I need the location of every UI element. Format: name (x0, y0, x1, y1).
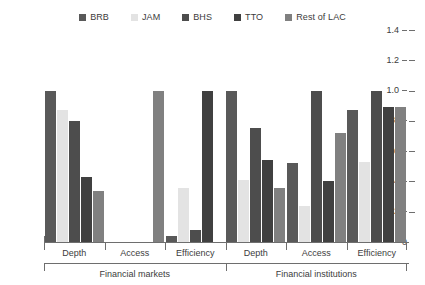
bar (69, 121, 80, 242)
bar (287, 163, 298, 242)
y-axis-tick-dash-right (409, 91, 415, 92)
category-label: Efficiency (358, 249, 396, 258)
bar (311, 91, 322, 242)
legend-item: Rest of LAC (285, 13, 346, 22)
bar-groups (44, 30, 407, 242)
bar-group (165, 30, 226, 242)
legend-swatch-icon (79, 14, 86, 21)
supergroup-label: Financial institutions (276, 270, 357, 279)
bar (299, 206, 310, 242)
bar-group (105, 30, 166, 242)
legend-swatch-icon (131, 14, 138, 21)
supergroup-label: Financial markets (99, 270, 170, 279)
bar-group (226, 30, 287, 242)
legend-swatch-icon (182, 14, 189, 21)
legend-item: JAM (131, 13, 160, 22)
bar (323, 181, 334, 242)
supergroup-label-cell: Financial markets (44, 264, 226, 284)
y-axis-origin-tick (44, 236, 45, 243)
legend-swatch-icon (234, 14, 241, 21)
bar-group (44, 30, 105, 242)
bar (45, 91, 56, 242)
bar (274, 188, 285, 243)
supergroup-tick-end (406, 264, 407, 271)
category-label: Depth (244, 249, 268, 258)
legend-label: TTO (245, 13, 263, 22)
y-axis-tick-dash-right (409, 151, 415, 152)
category-tick (226, 243, 227, 250)
y-axis-tick-dash-right (409, 212, 415, 213)
bar (153, 91, 164, 242)
bar (335, 133, 346, 242)
y-axis-tick-dash-right (409, 60, 415, 61)
legend-label: Rest of LAC (296, 13, 346, 22)
bar (93, 191, 104, 242)
category-tick-end (406, 243, 407, 250)
grouped-bar-chart: BRBJAMBHSTTORest of LAC 00.20.40.60.81.0… (0, 0, 425, 285)
legend-label: BRB (90, 13, 109, 22)
bar (371, 91, 382, 242)
legend-label: JAM (142, 13, 160, 22)
legend-label: BHS (193, 13, 212, 22)
bar (57, 110, 68, 242)
y-axis-tick-dash-right (409, 121, 415, 122)
category-label: Efficiency (176, 249, 214, 258)
category-label-cell: Depth (44, 243, 105, 263)
category-label-cell: Access (286, 243, 347, 263)
category-label: Depth (62, 249, 86, 258)
bar (395, 107, 406, 242)
bar (359, 162, 370, 242)
category-label-cell: Efficiency (347, 243, 408, 263)
bar (347, 110, 358, 242)
y-axis-tick-dash-right (409, 30, 415, 31)
category-tick (165, 243, 166, 250)
supergroup-tick (44, 264, 45, 271)
legend-item: BHS (182, 13, 212, 22)
category-label: Access (120, 249, 149, 258)
category-tick (105, 243, 106, 250)
bar (250, 128, 261, 242)
supergroup-tick (226, 264, 227, 271)
legend-swatch-icon (285, 14, 292, 21)
supergroup-axis-labels: Financial marketsFinancial institutions (44, 264, 407, 284)
category-axis-labels: DepthAccessEfficiencyDepthAccessEfficien… (44, 243, 407, 263)
bar (178, 188, 189, 243)
bar-group (347, 30, 408, 242)
y-axis-tick-dash-right (409, 181, 415, 182)
category-label-cell: Depth (226, 243, 287, 263)
bar (383, 107, 394, 242)
category-tick (347, 243, 348, 250)
category-label-cell: Access (105, 243, 166, 263)
bar (226, 91, 237, 242)
legend-item: BRB (79, 13, 109, 22)
category-tick (44, 243, 45, 250)
category-label-cell: Efficiency (165, 243, 226, 263)
bar (190, 230, 201, 242)
bar-group (286, 30, 347, 242)
chart-legend: BRBJAMBHSTTORest of LAC (0, 10, 425, 24)
bar (238, 180, 249, 242)
category-label: Access (302, 249, 331, 258)
category-tick (286, 243, 287, 250)
supergroup-label-cell: Financial institutions (226, 264, 408, 284)
bar (262, 160, 273, 242)
bar (202, 91, 213, 242)
legend-item: TTO (234, 13, 263, 22)
bar (81, 177, 92, 242)
